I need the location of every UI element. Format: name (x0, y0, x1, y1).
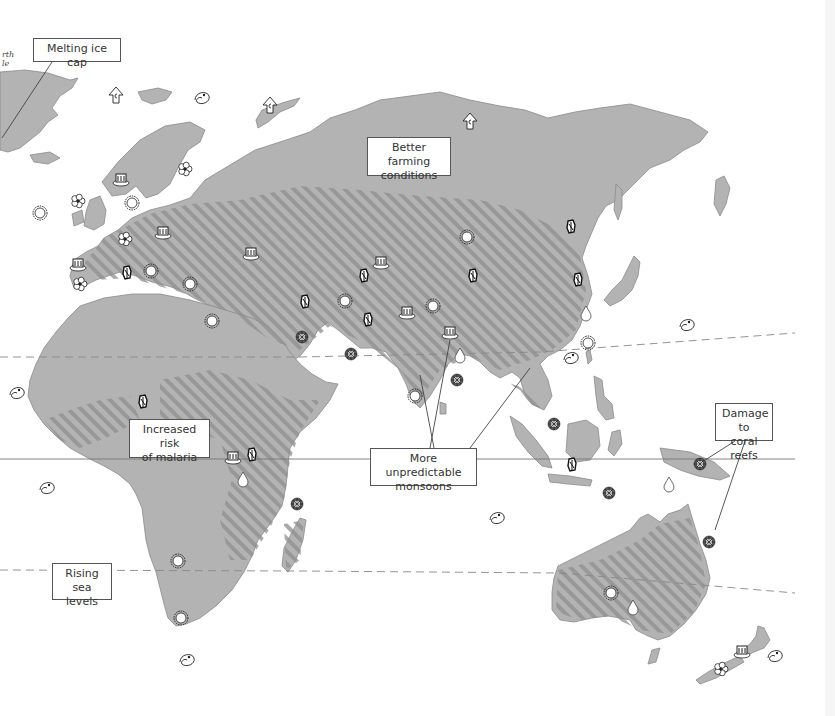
water-drop-icon (664, 477, 674, 492)
coral-reef-icon (291, 498, 303, 510)
label-better-farming: Better farming conditions (367, 137, 451, 176)
landmass-taiwan (586, 350, 592, 364)
landmass-sulawesi (608, 430, 622, 456)
coral-reef-icon (603, 487, 615, 499)
label-increased-malaria: Increased risk of malaria (129, 419, 210, 458)
coral-reef-icon (703, 536, 715, 548)
map-canvas (0, 0, 835, 716)
hurricane-swirl-icon (180, 655, 194, 666)
coral-reef-icon (451, 374, 463, 386)
landmass-ireland (72, 210, 84, 226)
page-margin-strip (825, 0, 835, 716)
landmass-japan (604, 256, 640, 306)
mosquito-malaria-icon (301, 295, 309, 308)
landmass-svalbard (138, 88, 172, 104)
flower-farming-icon (179, 162, 192, 176)
landmass-sri-lanka (440, 402, 446, 414)
landmass-philippines (594, 376, 614, 420)
landmass-java (548, 474, 592, 486)
hurricane-swirl-icon (490, 513, 504, 524)
mosquito-malaria-icon (139, 395, 147, 408)
label-coral-reef-damage: Damage to coral reefs (715, 403, 773, 441)
mosquito-malaria-icon (123, 266, 131, 279)
flower-farming-icon (72, 194, 85, 208)
landmass-borneo (566, 420, 600, 462)
coral-reef-icon (694, 458, 706, 470)
coral-reef-icon (548, 418, 560, 430)
mosquito-malaria-icon (364, 313, 372, 326)
label-melting-ice-cap: Melting ice cap (33, 38, 121, 62)
label-unpredictable-monsoons: More unpredictable monsoons (370, 448, 477, 486)
mosquito-malaria-icon (574, 273, 582, 286)
landmass-uk (84, 196, 106, 230)
climate-impact-map: rth le Melting ice capBetter farming con… (0, 0, 835, 716)
sun-drought-icon (125, 196, 139, 210)
landmass-sumatra (510, 416, 552, 468)
landmass-tasmania (648, 648, 660, 664)
landmass-sakhalin (614, 184, 622, 220)
label-rising-sea-levels: Rising sea levels (52, 563, 112, 600)
hurricane-swirl-icon (768, 651, 782, 662)
sun-drought-icon (33, 206, 47, 220)
mosquito-malaria-icon (248, 448, 256, 461)
mosquito-malaria-icon (469, 269, 477, 282)
north-pole-label: rth le (2, 50, 14, 68)
hurricane-swirl-icon (40, 483, 54, 494)
hurricane-swirl-icon (195, 93, 209, 104)
landmass-scandinavia (102, 122, 205, 198)
hurricane-swirl-icon (680, 320, 694, 331)
mosquito-malaria-icon (567, 220, 575, 233)
landmass-kamchatka (714, 176, 730, 216)
landmass-novaya-zemlya (256, 98, 300, 128)
coral-reef-icon (345, 348, 357, 360)
melting-ice-arrow-icon (109, 87, 123, 103)
mosquito-malaria-icon (360, 269, 368, 282)
hurricane-swirl-icon (564, 353, 578, 364)
landmass-iceland (30, 152, 60, 164)
mosquito-malaria-icon (568, 458, 576, 471)
coral-reef-icon (296, 331, 308, 343)
sun-drought-icon (581, 336, 595, 350)
hurricane-swirl-icon (10, 388, 24, 399)
